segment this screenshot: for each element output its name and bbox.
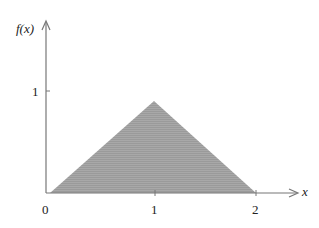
- triangle-area: [50, 101, 256, 193]
- y-axis-label: f(x): [16, 22, 34, 35]
- x-tick-1: 1: [151, 203, 158, 216]
- chart-plot: [0, 0, 319, 228]
- x-tick-2: 2: [252, 203, 259, 216]
- x-tick-0: 0: [42, 203, 49, 216]
- chart: f(x) x 1 0 1 2: [0, 0, 319, 228]
- y-tick-1: 1: [32, 85, 39, 98]
- x-axis-label: x: [302, 185, 308, 198]
